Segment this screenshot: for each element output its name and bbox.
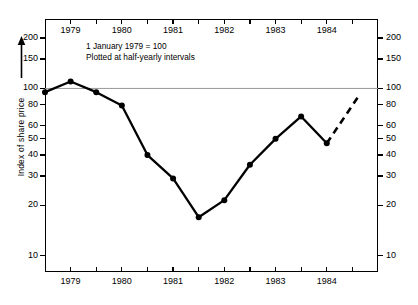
x-tick-label-top-1982: 1982 — [204, 26, 244, 35]
data-point — [196, 214, 202, 220]
x-tick-top-1983.5 — [301, 19, 302, 24]
y-tick-left-20 — [40, 205, 45, 206]
y-tick-right-60 — [378, 125, 383, 126]
x-tick-top-1982 — [224, 19, 225, 24]
y-tick-left-200 — [40, 37, 45, 38]
x-tick-bottom-1981 — [172, 267, 173, 272]
y-tick-left-80 — [40, 104, 45, 105]
x-tick-label-top-1984: 1984 — [307, 26, 347, 35]
annotation-line-2: Plotted at half-yearly intervals — [86, 52, 195, 63]
data-point — [273, 136, 279, 142]
y-tick-right-200 — [378, 37, 383, 38]
x-tick-top-1981.5 — [198, 19, 199, 24]
y-tick-left-60 — [40, 125, 45, 126]
y-tick-label-left-60: 60 — [11, 121, 38, 130]
data-point — [68, 79, 74, 85]
data-point — [247, 162, 253, 168]
data-point — [298, 113, 304, 119]
y-tick-right-40 — [378, 154, 383, 155]
x-tick-top-1984.5 — [352, 19, 353, 24]
y-tick-label-left-150: 150 — [11, 54, 38, 63]
y-tick-left-40 — [40, 154, 45, 155]
series-line — [327, 98, 358, 144]
y-tick-right-50 — [378, 138, 383, 139]
x-tick-label-top-1979: 1979 — [51, 26, 91, 35]
data-point — [144, 152, 150, 158]
x-tick-top-1981 — [172, 19, 173, 24]
series-line — [45, 82, 327, 218]
x-tick-label-top-1980: 1980 — [102, 26, 142, 35]
y-tick-label-right-10: 10 — [386, 251, 413, 260]
x-tick-top-1982.5 — [249, 19, 250, 24]
x-tick-bottom-1980 — [121, 267, 122, 272]
chart-page: Index of share price 1010202030304040505… — [0, 0, 418, 305]
y-tick-label-left-20: 20 — [11, 200, 38, 209]
x-tick-bottom-1982 — [224, 267, 225, 272]
y-tick-right-10 — [378, 255, 383, 256]
y-tick-label-left-80: 80 — [11, 100, 38, 109]
x-tick-bottom-1983.5 — [301, 267, 302, 272]
x-tick-label-top-1981: 1981 — [153, 26, 193, 35]
series-lines-group — [45, 82, 358, 218]
y-tick-right-80 — [378, 104, 383, 105]
x-tick-top-1979.5 — [96, 19, 97, 24]
y-tick-label-left-200: 200 — [11, 33, 38, 42]
x-tick-top-1983 — [275, 19, 276, 24]
y-tick-label-right-60: 60 — [386, 121, 413, 130]
y-tick-label-left-30: 30 — [11, 171, 38, 180]
x-tick-bottom-1979 — [70, 267, 71, 272]
x-tick-label-bottom-1979: 1979 — [51, 277, 91, 286]
y-tick-label-right-200: 200 — [386, 33, 413, 42]
y-tick-left-10 — [40, 255, 45, 256]
x-tick-bottom-1984.5 — [352, 267, 353, 272]
y-tick-label-right-150: 150 — [386, 54, 413, 63]
y-tick-left-50 — [40, 138, 45, 139]
x-tick-bottom-1982.5 — [249, 267, 250, 272]
x-tick-bottom-1984 — [326, 267, 327, 272]
figure-caption — [0, 289, 418, 305]
y-tick-left-100 — [40, 88, 45, 89]
annotation-line-1: 1 January 1979 = 100 — [86, 41, 195, 52]
x-tick-label-bottom-1984: 1984 — [307, 277, 347, 286]
data-point — [42, 89, 48, 95]
x-tick-label-bottom-1982: 1982 — [204, 277, 244, 286]
y-tick-label-right-20: 20 — [386, 200, 413, 209]
y-tick-label-left-40: 40 — [11, 150, 38, 159]
x-tick-label-bottom-1983: 1983 — [256, 277, 296, 286]
x-tick-label-bottom-1981: 1981 — [153, 277, 193, 286]
data-point — [170, 175, 176, 181]
x-tick-label-top-1983: 1983 — [256, 26, 296, 35]
y-tick-label-right-80: 80 — [386, 100, 413, 109]
x-tick-top-1980.5 — [147, 19, 148, 24]
x-tick-top-1980 — [121, 19, 122, 24]
y-tick-label-right-40: 40 — [386, 150, 413, 159]
y-tick-right-30 — [378, 175, 383, 176]
x-tick-label-bottom-1980: 1980 — [102, 277, 142, 286]
data-point — [324, 140, 330, 146]
y-tick-left-150 — [40, 58, 45, 59]
data-point — [119, 103, 125, 109]
y-tick-label-right-100: 100 — [386, 83, 413, 92]
x-tick-top-1979 — [70, 19, 71, 24]
x-tick-bottom-1979.5 — [96, 267, 97, 272]
chart-annotation: 1 January 1979 = 100 Plotted at half-yea… — [86, 41, 195, 62]
y-tick-label-left-100: 100 — [11, 83, 38, 92]
y-tick-label-left-50: 50 — [11, 134, 38, 143]
y-tick-right-20 — [378, 205, 383, 206]
x-tick-top-1984 — [326, 19, 327, 24]
page-top-rule — [0, 0, 418, 5]
data-point — [221, 197, 227, 203]
y-tick-label-right-50: 50 — [386, 134, 413, 143]
x-tick-bottom-1981.5 — [198, 267, 199, 272]
x-tick-bottom-1983 — [275, 267, 276, 272]
y-tick-right-100 — [378, 88, 383, 89]
y-tick-label-left-10: 10 — [11, 251, 38, 260]
x-tick-bottom-1980.5 — [147, 267, 148, 272]
data-point — [93, 89, 99, 95]
y-tick-label-right-30: 30 — [386, 171, 413, 180]
y-tick-right-150 — [378, 58, 383, 59]
y-tick-left-30 — [40, 175, 45, 176]
